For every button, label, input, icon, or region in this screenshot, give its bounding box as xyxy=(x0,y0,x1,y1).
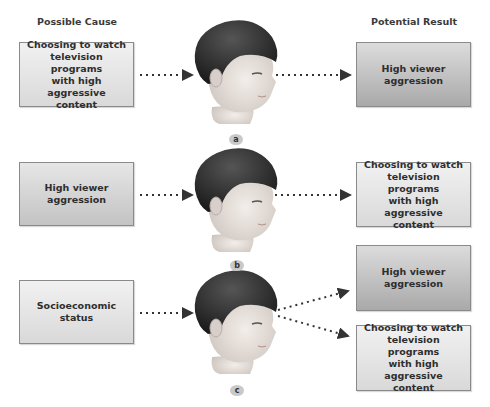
child-head-illustration-b xyxy=(190,140,285,255)
panel-a-cause-box: Choosing to watch television programs wi… xyxy=(19,42,134,107)
panel-label-a: a xyxy=(229,134,243,145)
panel-b-result-box: Choosing to watch television programs wi… xyxy=(356,162,471,227)
panel-c-cause-box: Socioeconomic status xyxy=(19,280,134,344)
panel-b-cause-text: High viewer aggression xyxy=(39,182,115,206)
arrow-c-head-to-result-1 xyxy=(278,291,348,310)
panel-b-cause-box: High viewer aggression xyxy=(19,162,134,226)
child-head-illustration-a xyxy=(190,12,285,127)
panel-c-result-1-box: High viewer aggression xyxy=(356,245,471,311)
panel-label-c: c xyxy=(230,385,244,396)
panel-c-cause-text: Socioeconomic status xyxy=(31,300,122,324)
panel-a-result-text: High viewer aggression xyxy=(376,63,452,87)
child-head-illustration-c xyxy=(190,262,285,377)
arrow-c-head-to-result-2 xyxy=(278,316,348,336)
panel-c-result-2-text: Choosing to watch television programs wi… xyxy=(357,322,470,394)
panel-b-result-text: Choosing to watch television programs wi… xyxy=(357,159,470,231)
panel-c-result-1-text: High viewer aggression xyxy=(376,266,452,290)
panel-c-result-2-box: Choosing to watch television programs wi… xyxy=(356,325,471,391)
panel-a-cause-text: Choosing to watch television programs wi… xyxy=(20,39,133,111)
panel-label-b: b xyxy=(230,260,244,271)
panel-a-result-box: High viewer aggression xyxy=(356,42,471,107)
